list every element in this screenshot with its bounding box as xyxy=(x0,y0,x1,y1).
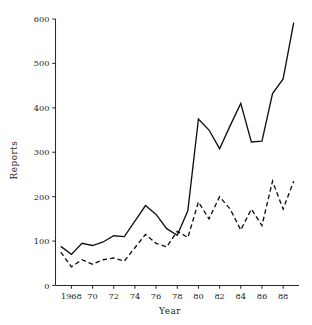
x-tick-label: 80 xyxy=(193,291,203,301)
x-tick-label: 76 xyxy=(151,291,161,301)
y-tick-label: 100 xyxy=(34,236,50,246)
x-tick-label: 86 xyxy=(257,291,267,301)
data-series-group xyxy=(61,23,294,267)
line-chart-plot: 0100200300400500600 19687072747678808284… xyxy=(0,0,312,325)
x-tick-label: 82 xyxy=(214,291,224,301)
x-axis: 196870727476788082848688 xyxy=(56,286,300,301)
x-tick-label: 88 xyxy=(278,291,288,301)
x-tick-label: 74 xyxy=(130,291,140,301)
y-tick-label: 0 xyxy=(44,281,49,291)
x-axis-title: Year xyxy=(158,306,181,316)
y-tick-label: 400 xyxy=(34,103,50,113)
x-tick-label: 84 xyxy=(236,291,246,301)
y-tick-label: 500 xyxy=(34,58,50,68)
y-axis-title: Reports xyxy=(9,141,19,180)
y-tick-group: 0100200300400500600 xyxy=(34,14,56,291)
y-tick-label: 300 xyxy=(34,147,50,157)
chart-figure: 0100200300400500600 19687072747678808284… xyxy=(0,0,312,325)
dashed-series-line xyxy=(61,181,294,267)
x-tick-label: 70 xyxy=(87,291,97,301)
y-tick-label: 200 xyxy=(34,192,50,202)
x-tick-group: 196870727476788082848688 xyxy=(61,286,288,301)
x-tick-label: 78 xyxy=(172,291,182,301)
x-tick-label: 1968 xyxy=(61,291,82,301)
y-axis: 0100200300400500600 xyxy=(34,14,56,291)
x-tick-label: 72 xyxy=(109,291,119,301)
y-tick-label: 600 xyxy=(34,14,50,24)
